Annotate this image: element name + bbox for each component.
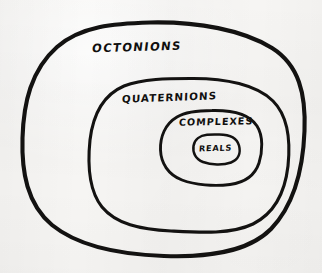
region-label-complexes: COMPLEXES [179,116,254,127]
region-label-octonions: OCTONIONS [91,41,182,55]
region-label-reals: REALS [199,143,233,152]
hand-drawn-number-systems-diagram: OCTONIONS QUATERNIONS COMPLEXES REALS [0,0,322,273]
